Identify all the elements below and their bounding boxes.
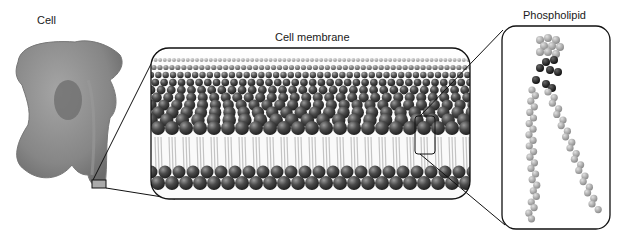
membrane-panel: [138, 48, 480, 199]
cell-zoom-region: [92, 180, 106, 188]
phospholipid-label: Phospholipid: [523, 9, 586, 21]
cell-label: Cell: [37, 14, 56, 26]
cell-illustration: [16, 41, 122, 187]
membrane-label: Cell membrane: [275, 31, 350, 43]
